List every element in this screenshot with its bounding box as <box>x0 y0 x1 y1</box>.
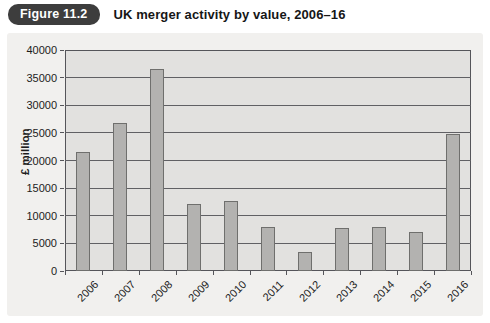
y-axis-title: £ million <box>19 145 31 175</box>
bar-2008 <box>150 69 164 271</box>
y-axis-tick <box>60 243 64 244</box>
x-axis-tick <box>360 271 361 275</box>
gridline-30000 <box>65 105 471 106</box>
x-axis-label-2009: 2009 <box>186 278 212 304</box>
y-axis-tick-label: 40000 <box>7 44 57 56</box>
bar-2010 <box>224 201 238 271</box>
figure-header: Figure 11.2 UK merger activity by value,… <box>8 3 345 25</box>
x-axis-label-2010: 2010 <box>223 278 249 304</box>
x-axis-tick <box>139 271 140 275</box>
figure-panel: 0500010000150002000025000300003500040000… <box>7 33 483 316</box>
x-axis-label-2014: 2014 <box>370 278 396 304</box>
x-axis-tick <box>102 271 103 275</box>
y-axis-tick-label: 30000 <box>7 99 57 111</box>
bar-2014 <box>372 227 386 271</box>
y-axis-tick-label: 5000 <box>7 237 57 249</box>
x-axis-label-2015: 2015 <box>407 278 433 304</box>
bar-2013 <box>335 228 349 271</box>
figure-title: UK merger activity by value, 2006–16 <box>114 7 346 22</box>
bar-2007 <box>113 123 127 271</box>
x-axis-label-2006: 2006 <box>75 278 101 304</box>
bar-2011 <box>261 227 275 271</box>
gridline-35000 <box>65 77 471 78</box>
y-axis-tick-label: 15000 <box>7 182 57 194</box>
x-axis-label-2013: 2013 <box>333 278 359 304</box>
x-axis-tick <box>250 271 251 275</box>
bar-2012 <box>298 252 312 271</box>
y-axis-tick <box>60 77 64 78</box>
bar-2016 <box>446 134 460 271</box>
bar-2015 <box>409 232 423 271</box>
x-axis-label-2016: 2016 <box>444 278 470 304</box>
x-axis-tick <box>323 271 324 275</box>
y-axis-tick-label: 35000 <box>7 72 57 84</box>
x-axis-tick <box>434 271 435 275</box>
y-axis-tick-label: 25000 <box>7 127 57 139</box>
x-axis-label-2012: 2012 <box>297 278 323 304</box>
x-axis-tick <box>213 271 214 275</box>
x-axis-tick <box>65 271 66 275</box>
x-axis-tick <box>471 271 472 275</box>
x-axis-label-2008: 2008 <box>149 278 175 304</box>
bar-2006 <box>76 152 90 271</box>
y-axis-tick <box>60 132 64 133</box>
x-axis-label-2007: 2007 <box>112 278 138 304</box>
figure-number-badge: Figure 11.2 <box>8 4 100 25</box>
scanned-figure-page: Figure 11.2 UK merger activity by value,… <box>0 0 490 323</box>
y-axis-tick <box>60 160 64 161</box>
y-axis-tick <box>60 50 64 51</box>
y-axis-tick <box>60 105 64 106</box>
x-axis-label-2011: 2011 <box>260 278 285 303</box>
y-axis-tick-label: 20000 <box>7 155 57 167</box>
x-axis-tick <box>286 271 287 275</box>
x-axis-tick <box>176 271 177 275</box>
y-axis-tick-label: 10000 <box>7 210 57 222</box>
y-axis-tick-label: 0 <box>7 265 57 277</box>
y-axis-tick <box>60 188 64 189</box>
bar-2009 <box>187 204 201 271</box>
y-axis-tick <box>60 215 64 216</box>
y-axis-tick <box>60 271 64 272</box>
x-axis-tick <box>397 271 398 275</box>
